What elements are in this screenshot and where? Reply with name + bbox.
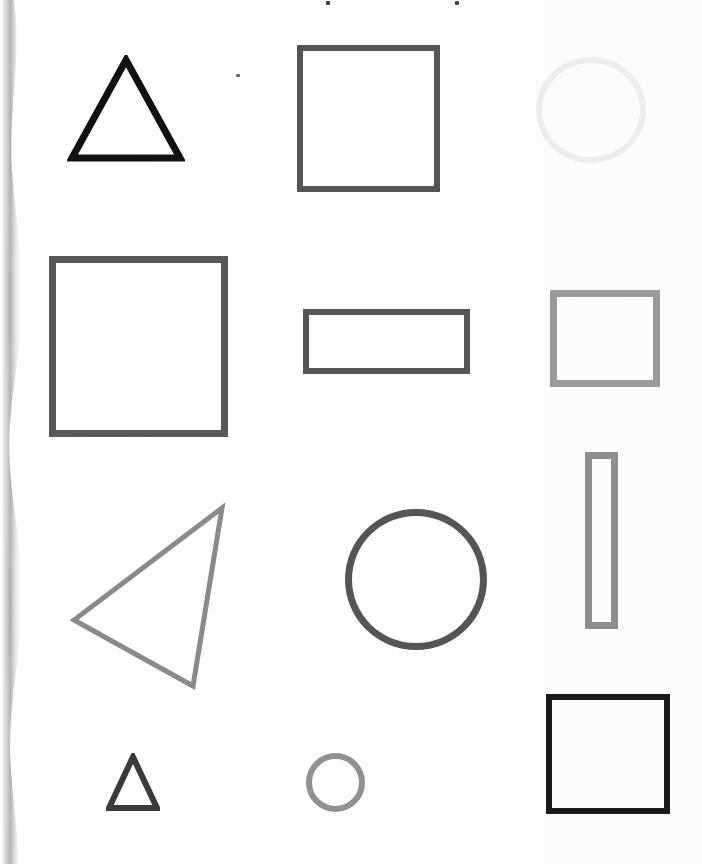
speck-top-left [326, 1, 330, 5]
rectangle-wide-darkgray [303, 309, 470, 374]
square-darkgray-top [297, 45, 440, 192]
triangle-rotated-gray [70, 500, 230, 690]
square-large-darkgray [49, 256, 228, 437]
worksheet-page [0, 0, 702, 864]
rectangle-tall-narrow-gray [585, 452, 618, 629]
speck-mid-upper [236, 74, 240, 77]
square-black-bottom [546, 694, 670, 814]
triangle-small-charcoal [106, 753, 160, 812]
square-medium-gray [550, 290, 660, 387]
triangle-large-black [67, 55, 185, 163]
circle-small-gray [306, 753, 365, 812]
circle-verylight-top [536, 57, 646, 163]
circle-large-darkgray [345, 509, 487, 650]
speck-top-right [455, 1, 459, 5]
